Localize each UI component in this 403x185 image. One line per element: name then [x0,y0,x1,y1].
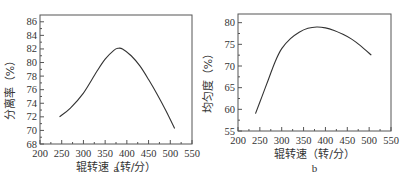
y-tick-label: 80 [225,17,236,28]
y-axis-title: 均匀度（%） [201,48,215,113]
y-tick-label: 82 [27,43,38,54]
y-tick-label: 80 [27,57,38,68]
y-tick-label: 70 [225,61,236,72]
y-tick-label: 60 [225,104,236,115]
x-tick-label: 400 [318,135,334,146]
y-tick-label: 84 [27,30,38,41]
x-tick-label: 550 [383,135,399,146]
y-tick-label: 70 [27,125,38,136]
panel-label: a [114,162,119,174]
y-tick-label: 75 [225,39,236,50]
x-tick-label: 300 [76,148,92,159]
chart-panel-b: 200250300350400450500550556065707580辊转速（… [201,14,399,174]
y-tick-label: 78 [27,71,38,82]
y-tick-label: 65 [225,82,236,93]
x-tick-label: 200 [230,135,246,146]
y-tick-label: 76 [27,84,38,95]
x-tick-label: 350 [296,135,312,146]
data-line [60,48,175,128]
plot-frame [238,14,391,131]
data-line [255,27,371,114]
x-tick-label: 550 [184,148,200,159]
chart-panel-a: 2002503003504004505005506870727476788082… [3,15,200,174]
x-axis-title: 辊转速（转/分） [274,147,355,161]
x-tick-label: 400 [119,148,135,159]
x-tick-label: 300 [274,135,290,146]
x-tick-label: 450 [141,148,157,159]
y-tick-label: 86 [27,16,38,27]
chart-figure: 2002503003504004505005506870727476788082… [0,0,403,185]
x-tick-label: 200 [32,148,48,159]
y-tick-label: 68 [27,139,38,150]
plot-frame [40,15,192,144]
x-tick-label: 250 [252,135,268,146]
x-tick-label: 450 [339,135,355,146]
x-tick-label: 500 [361,135,377,146]
x-tick-label: 500 [162,148,178,159]
y-tick-label: 74 [27,98,38,109]
y-tick-label: 72 [27,111,38,122]
x-tick-label: 250 [54,148,70,159]
x-tick-label: 350 [97,148,113,159]
panel-label: b [312,162,318,174]
y-tick-label: 55 [225,126,236,137]
y-axis-title: 分离率（%） [3,55,17,120]
